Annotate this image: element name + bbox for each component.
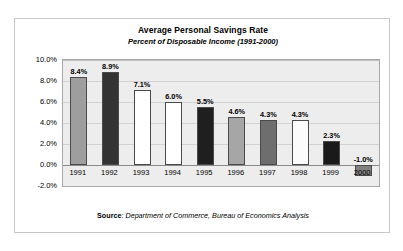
bar-value-label: 8.9% — [87, 62, 133, 71]
bar — [165, 102, 182, 165]
source-text: Department of Commerce, Bureau of Econom… — [125, 211, 309, 220]
bar — [70, 77, 87, 165]
x-axis-tick: 2000 — [339, 168, 385, 177]
chart-title: Average Personal Savings Rate — [15, 25, 391, 35]
y-axis-tick: 10.0% — [15, 55, 57, 64]
bar-value-label: 4.3% — [277, 110, 323, 119]
bar — [323, 141, 340, 165]
y-axis-tick: 8.0% — [15, 76, 57, 85]
bar-value-label: -1.0% — [340, 155, 386, 164]
bar — [292, 120, 309, 165]
bar — [228, 117, 245, 165]
chart-screenshot: Average Personal Savings Rate Percent of… — [0, 0, 403, 251]
bar — [102, 72, 119, 165]
y-axis-tick: 6.0% — [15, 97, 57, 106]
y-axis-tick: -2.0% — [15, 181, 57, 190]
chart-subtitle: Percent of Disposable Income (1991-2000) — [15, 37, 391, 46]
bar-value-label: 2.3% — [309, 131, 355, 140]
bar — [260, 120, 277, 165]
source-label: Source — [97, 211, 121, 220]
chart-frame: Average Personal Savings Rate Percent of… — [14, 18, 390, 233]
bar-value-label: 5.5% — [182, 97, 228, 106]
y-axis-tick: 2.0% — [15, 139, 57, 148]
bar-value-label: 7.1% — [119, 80, 165, 89]
y-axis-tick: 0.0% — [15, 160, 57, 169]
y-axis-tick: 4.0% — [15, 118, 57, 127]
bar — [134, 90, 151, 165]
bar — [197, 107, 214, 165]
source-note: Source: Department of Commerce, Bureau o… — [15, 211, 391, 220]
